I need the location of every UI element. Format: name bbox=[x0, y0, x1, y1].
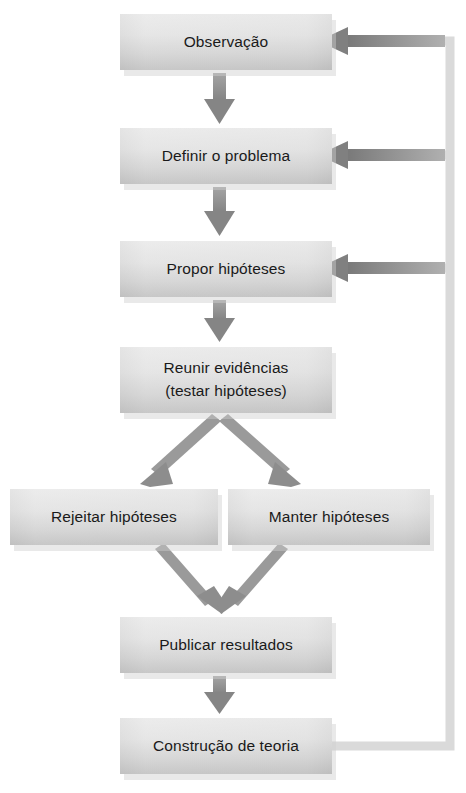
node-label-definir-o-problema: Definir o problema bbox=[162, 147, 291, 164]
arrow-publicar-to-teoria bbox=[204, 676, 235, 714]
node-propor-hipoteses[interactable]: Propor hipóteses bbox=[120, 241, 336, 303]
node-label-rejeitar-hipoteses: Rejeitar hipóteses bbox=[51, 508, 177, 525]
arrow-manter-to-publicar bbox=[217, 543, 288, 614]
node-observacao[interactable]: Observação bbox=[120, 14, 336, 76]
node-label-reunir-evidencias-line1: Reunir evidências bbox=[164, 359, 289, 376]
node-publicar-resultados[interactable]: Publicar resultados bbox=[120, 617, 336, 679]
arrow-observacao-to-definir bbox=[204, 73, 235, 124]
node-definir-o-problema[interactable]: Definir o problema bbox=[120, 128, 336, 190]
node-reunir-evidencias[interactable]: Reunir evidências (testar hipóteses) bbox=[120, 347, 336, 419]
node-manter-hipoteses[interactable]: Manter hipóteses bbox=[228, 489, 434, 551]
arrow-rejeitar-to-publicar bbox=[155, 543, 226, 614]
node-rejeitar-hipoteses[interactable]: Rejeitar hipóteses bbox=[10, 489, 222, 551]
arrow-evidencias-to-manter bbox=[219, 414, 301, 487]
node-label-observacao: Observação bbox=[184, 33, 269, 50]
flowchart-diagram: Observação Definir o problema Propor hip… bbox=[0, 0, 466, 793]
feedback-arrow-observacao bbox=[318, 27, 445, 55]
feedback-loop-line bbox=[332, 41, 450, 746]
feedback-arrow-definir bbox=[318, 141, 445, 169]
node-label-publicar-resultados: Publicar resultados bbox=[159, 636, 293, 653]
arrow-hipoteses-to-evidencias bbox=[204, 300, 235, 342]
node-label-propor-hipoteses: Propor hipóteses bbox=[167, 260, 286, 277]
node-label-reunir-evidencias-line2: (testar hipóteses) bbox=[165, 382, 287, 399]
node-label-construcao-de-teoria: Construção de teoria bbox=[153, 737, 299, 754]
arrow-evidencias-to-rejeitar bbox=[140, 414, 221, 487]
feedback-arrow-hipoteses bbox=[318, 254, 445, 282]
arrow-definir-to-hipoteses bbox=[204, 187, 235, 236]
node-construcao-de-teoria[interactable]: Construção de teoria bbox=[120, 718, 336, 780]
flowchart-canvas: Observação Definir o problema Propor hip… bbox=[0, 0, 466, 793]
node-label-manter-hipoteses: Manter hipóteses bbox=[269, 508, 390, 525]
